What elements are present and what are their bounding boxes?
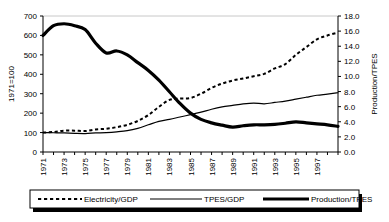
legend-label-electricity-gdp: Electricity/GDP bbox=[84, 195, 138, 204]
x-axis-tick-labels: 1971197319751977197919811983198519871989… bbox=[39, 157, 322, 175]
y-axis-right-tick-label: 12.0 bbox=[344, 57, 360, 66]
y-axis-left-tick-label: 700 bbox=[24, 12, 38, 21]
x-axis-tick-label: 1977 bbox=[102, 157, 111, 175]
y-axis-right-tick-label: 6.0 bbox=[344, 103, 356, 112]
y-axis-right-tick-label: 14.0 bbox=[344, 42, 360, 51]
chart-container: 0100200300400500600700 0.02.04.06.08.010… bbox=[0, 0, 389, 222]
y-axis-left-tick-label: 600 bbox=[24, 31, 38, 40]
x-axis-tick-label: 1979 bbox=[123, 157, 132, 175]
y-axis-left-tick-label: 300 bbox=[24, 90, 38, 99]
y-axis-left-tick-label: 400 bbox=[24, 70, 38, 79]
x-axis-tick-label: 1985 bbox=[187, 157, 196, 175]
y-axis-right-tick-label: 18.0 bbox=[344, 12, 360, 21]
x-axis-tick-label: 1983 bbox=[165, 157, 174, 175]
x-axis-tick-label: 1981 bbox=[144, 157, 153, 175]
x-axis-tick-label: 1991 bbox=[250, 157, 259, 175]
y-axis-right-tick-label: 0.0 bbox=[344, 148, 356, 157]
line-chart: 0100200300400500600700 0.02.04.06.08.010… bbox=[0, 0, 389, 222]
x-axis-tick-label: 1975 bbox=[81, 157, 90, 175]
x-axis-tick-label: 1993 bbox=[271, 157, 280, 175]
x-axis-tick-label: 1995 bbox=[292, 157, 301, 175]
y-axis-left-tick-label: 100 bbox=[24, 129, 38, 138]
x-axis-tick-label: 1989 bbox=[229, 157, 238, 175]
legend-label-tpes-gdp: TPES/GDP bbox=[204, 195, 244, 204]
y-axis-left-title: 1971=100 bbox=[7, 66, 16, 102]
y-axis-left-tick-label: 200 bbox=[24, 109, 38, 118]
x-axis-tick-label: 1987 bbox=[208, 157, 217, 175]
y-axis-left-tick-label: 500 bbox=[24, 51, 38, 60]
x-axis-tick-label: 1971 bbox=[39, 157, 48, 175]
legend: Electricity/GDPTPES/GDPProduction/TPES bbox=[38, 195, 372, 204]
plot-area-background bbox=[43, 16, 338, 152]
y-axis-left-tick-label: 0 bbox=[33, 148, 38, 157]
x-axis-tick-label: 1973 bbox=[60, 157, 69, 175]
y-axis-right-tick-label: 10.0 bbox=[344, 72, 360, 81]
y-axis-right-tick-label: 4.0 bbox=[344, 118, 356, 127]
y-axis-right-title: Production/TPES bbox=[370, 53, 379, 114]
y-axis-right-tick-label: 8.0 bbox=[344, 88, 356, 97]
y-axis-right-tick-labels: 0.02.04.06.08.010.012.014.016.018.0 bbox=[344, 12, 360, 157]
legend-label-production-tpes: Production/TPES bbox=[311, 195, 372, 204]
y-axis-right-tick-label: 16.0 bbox=[344, 27, 360, 36]
y-axis-right-tick-label: 2.0 bbox=[344, 133, 356, 142]
y-axis-left-tick-labels: 0100200300400500600700 bbox=[24, 12, 38, 157]
x-axis-tick-label: 1997 bbox=[313, 157, 322, 175]
